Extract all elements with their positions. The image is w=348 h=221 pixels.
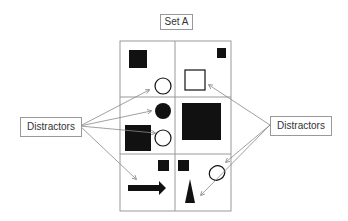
small-filled-square xyxy=(178,160,189,171)
diagram-canvas xyxy=(0,0,348,221)
outline-circle xyxy=(155,130,171,146)
distractors-label-left: Distractors xyxy=(20,117,82,137)
filled-square xyxy=(129,50,147,68)
outline-circle xyxy=(155,78,171,94)
set-title: Set A xyxy=(160,14,193,30)
distractors-label-right: Distractors xyxy=(270,116,332,136)
outline-square xyxy=(185,70,205,90)
filled-circle xyxy=(155,103,171,119)
small-filled-square xyxy=(217,48,226,58)
triangle xyxy=(185,179,195,203)
large-filled-square xyxy=(182,103,221,140)
arrow-shape xyxy=(128,181,166,195)
small-filled-square xyxy=(158,160,169,171)
outline-circle xyxy=(207,163,228,183)
filled-square xyxy=(125,125,151,151)
